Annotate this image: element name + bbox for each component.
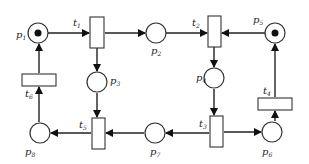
label-t3: t3 xyxy=(199,118,207,130)
transition-t2 xyxy=(208,16,221,47)
label-p5: p5 xyxy=(253,14,263,26)
place-p3 xyxy=(87,72,107,92)
transition-t5 xyxy=(92,118,105,149)
transition-t6 xyxy=(22,74,56,86)
transition-t4 xyxy=(258,98,292,110)
place-p8 xyxy=(30,123,50,143)
place-p4 xyxy=(204,68,224,88)
place-p6 xyxy=(262,122,282,142)
label-p6: p6 xyxy=(262,146,272,158)
label-p1: p1 xyxy=(16,29,26,41)
place-p7 xyxy=(145,123,165,143)
label-p3: p3 xyxy=(110,75,120,87)
label-p8: p8 xyxy=(25,146,35,158)
label-t2: t2 xyxy=(192,17,200,29)
places xyxy=(28,23,285,143)
label-p2: p2 xyxy=(151,45,161,57)
token-icon xyxy=(272,30,279,37)
label-t4: t4 xyxy=(263,85,271,97)
token-icon xyxy=(35,30,42,37)
petri-net-diagram: p1 p2 p3 p4 p5 p6 p7 p8 t1 t2 t3 t4 t5 t… xyxy=(0,0,309,164)
label-p7: p7 xyxy=(150,146,160,158)
label-t5: t5 xyxy=(79,119,87,131)
transition-t3 xyxy=(210,116,223,147)
label-t6: t6 xyxy=(25,88,33,100)
label-t1: t1 xyxy=(73,17,81,29)
place-p2 xyxy=(146,23,166,43)
transition-t1 xyxy=(90,17,104,48)
